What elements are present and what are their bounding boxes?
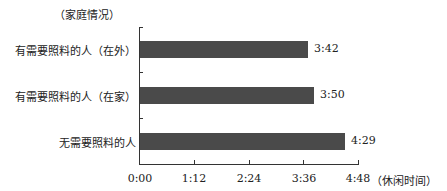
x-tick [358, 160, 359, 164]
x-tick [249, 160, 250, 164]
x-tick [194, 160, 195, 164]
y-tick [139, 118, 143, 119]
bar [140, 87, 314, 104]
x-tick-label: 4:48 [346, 172, 371, 185]
x-axis [139, 164, 359, 165]
bar [140, 133, 345, 150]
category-label: 有需要照料的人（在家） [0, 88, 136, 104]
x-axis-title: （休闲时间） [371, 172, 437, 188]
y-tick [139, 72, 143, 73]
bar-value-label: 4:29 [351, 134, 376, 147]
x-tick-label: 1:12 [182, 172, 207, 185]
category-label: 无需要照料的人 [0, 134, 136, 150]
y-axis-title: （家庭情况） [54, 6, 120, 22]
category-label: 有需要照料的人（在外） [0, 42, 136, 58]
x-tick-label: 2:24 [237, 172, 262, 185]
bar [140, 41, 308, 58]
x-tick-label: 3:36 [292, 172, 317, 185]
y-tick [139, 27, 143, 28]
x-tick [303, 160, 304, 164]
bar-value-label: 3:50 [320, 88, 345, 101]
bar-value-label: 3:42 [314, 42, 339, 55]
x-tick-label: 0:00 [128, 172, 153, 185]
